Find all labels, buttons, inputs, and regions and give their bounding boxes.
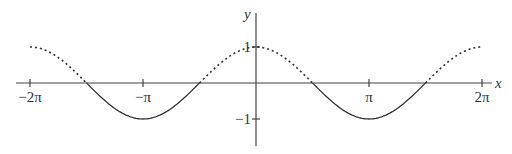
y-axis-label: y: [242, 6, 251, 22]
x-tick-label: −π: [135, 89, 151, 105]
y-tick-label: −1: [235, 111, 251, 127]
x-axis-label: x: [494, 75, 502, 91]
x-tick-label: −2π: [18, 89, 42, 105]
y-tick-label: 1: [244, 39, 252, 55]
x-tick-label: π: [365, 89, 373, 105]
axes: −2π−ππ2π 1−1 x y: [16, 6, 502, 146]
x-tick-label: 2π: [474, 89, 490, 105]
cosine-dotted-segment: [30, 47, 87, 83]
cosine-graph: −2π−ππ2π 1−1 x y: [0, 0, 512, 154]
cosine-dotted-segment: [426, 47, 483, 83]
